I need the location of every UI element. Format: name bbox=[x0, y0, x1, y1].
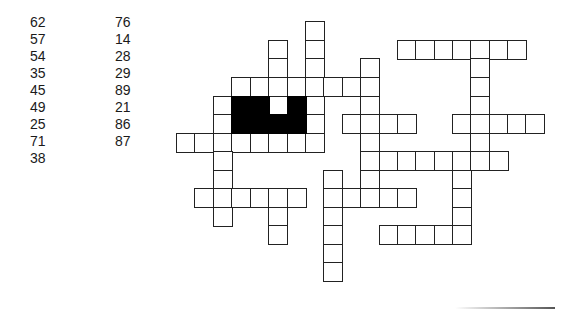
divider-rule bbox=[455, 307, 555, 309]
grid-cell[interactable] bbox=[360, 170, 380, 190]
grid-cell[interactable] bbox=[213, 114, 233, 134]
grid-cell[interactable] bbox=[525, 114, 545, 134]
grid-cell[interactable] bbox=[268, 188, 288, 208]
grid-cell[interactable] bbox=[507, 114, 527, 134]
grid-cell[interactable] bbox=[415, 151, 435, 171]
black-cell bbox=[250, 114, 270, 134]
grid-cell[interactable] bbox=[213, 151, 233, 171]
grid-cell[interactable] bbox=[287, 188, 307, 208]
grid-cell[interactable] bbox=[305, 40, 325, 60]
black-cell bbox=[231, 96, 251, 116]
black-cell bbox=[231, 114, 251, 134]
black-cell bbox=[287, 96, 307, 116]
grid-cell[interactable] bbox=[360, 188, 380, 208]
black-cell bbox=[268, 114, 288, 134]
grid-cell[interactable] bbox=[470, 58, 490, 78]
grid-cell[interactable] bbox=[434, 225, 454, 245]
grid-cell[interactable] bbox=[379, 151, 399, 171]
grid-cell[interactable] bbox=[452, 207, 472, 227]
grid-cell[interactable] bbox=[323, 262, 343, 282]
grid-cell[interactable] bbox=[360, 77, 380, 97]
grid-cell[interactable] bbox=[489, 151, 509, 171]
grid-cell[interactable] bbox=[342, 188, 362, 208]
grid-cell[interactable] bbox=[323, 188, 343, 208]
grid-cell[interactable] bbox=[231, 77, 251, 97]
grid-cell[interactable] bbox=[470, 40, 490, 60]
grid-cell[interactable] bbox=[250, 77, 270, 97]
grid-cell[interactable] bbox=[415, 40, 435, 60]
grid-cell[interactable] bbox=[397, 225, 417, 245]
grid-cell[interactable] bbox=[305, 133, 325, 153]
grid-cell[interactable] bbox=[268, 40, 288, 60]
black-cell bbox=[287, 114, 307, 134]
grid-cell[interactable] bbox=[213, 96, 233, 116]
grid-cell[interactable] bbox=[305, 58, 325, 78]
black-cell bbox=[250, 96, 270, 116]
grid-cell[interactable] bbox=[470, 151, 490, 171]
grid-cell[interactable] bbox=[507, 40, 527, 60]
grid-cell[interactable] bbox=[452, 170, 472, 190]
grid-cell[interactable] bbox=[452, 114, 472, 134]
grid-cell[interactable] bbox=[360, 151, 380, 171]
grid-cell[interactable] bbox=[231, 133, 251, 153]
grid-cell[interactable] bbox=[323, 170, 343, 190]
grid-cell[interactable] bbox=[268, 133, 288, 153]
grid-cell[interactable] bbox=[323, 77, 343, 97]
grid-cell[interactable] bbox=[231, 188, 251, 208]
grid-cell[interactable] bbox=[360, 133, 380, 153]
grid-cell[interactable] bbox=[379, 188, 399, 208]
grid-cell[interactable] bbox=[415, 225, 435, 245]
grid-cell[interactable] bbox=[489, 40, 509, 60]
grid-cell[interactable] bbox=[452, 40, 472, 60]
grid-cell[interactable] bbox=[379, 225, 399, 245]
grid-cell[interactable] bbox=[452, 225, 472, 245]
grid-cell[interactable] bbox=[305, 77, 325, 97]
grid-cell[interactable] bbox=[323, 207, 343, 227]
grid-cell[interactable] bbox=[360, 58, 380, 78]
grid-cell[interactable] bbox=[323, 225, 343, 245]
grid-cell[interactable] bbox=[268, 225, 288, 245]
crossword-grid bbox=[0, 0, 573, 311]
grid-cell[interactable] bbox=[452, 188, 472, 208]
grid-cell[interactable] bbox=[213, 170, 233, 190]
grid-cell[interactable] bbox=[434, 151, 454, 171]
grid-cell[interactable] bbox=[342, 114, 362, 134]
grid-cell[interactable] bbox=[470, 96, 490, 116]
grid-cell[interactable] bbox=[397, 151, 417, 171]
grid-cell[interactable] bbox=[470, 133, 490, 153]
grid-cell[interactable] bbox=[194, 133, 214, 153]
grid-cell[interactable] bbox=[305, 96, 325, 116]
grid-cell[interactable] bbox=[213, 188, 233, 208]
grid-cell[interactable] bbox=[250, 188, 270, 208]
grid-cell[interactable] bbox=[470, 114, 490, 134]
grid-cell[interactable] bbox=[176, 133, 196, 153]
grid-cell[interactable] bbox=[360, 114, 380, 134]
grid-cell[interactable] bbox=[305, 114, 325, 134]
grid-cell[interactable] bbox=[268, 96, 288, 116]
grid-cell[interactable] bbox=[452, 151, 472, 171]
grid-cell[interactable] bbox=[360, 96, 380, 116]
grid-cell[interactable] bbox=[287, 133, 307, 153]
grid-cell[interactable] bbox=[434, 40, 454, 60]
grid-cell[interactable] bbox=[268, 77, 288, 97]
grid-cell[interactable] bbox=[323, 244, 343, 264]
grid-cell[interactable] bbox=[287, 77, 307, 97]
grid-cell[interactable] bbox=[250, 133, 270, 153]
grid-cell[interactable] bbox=[213, 133, 233, 153]
grid-cell[interactable] bbox=[194, 188, 214, 208]
grid-cell[interactable] bbox=[397, 114, 417, 134]
grid-cell[interactable] bbox=[268, 207, 288, 227]
grid-cell[interactable] bbox=[342, 77, 362, 97]
grid-cell[interactable] bbox=[489, 114, 509, 134]
grid-cell[interactable] bbox=[379, 114, 399, 134]
grid-cell[interactable] bbox=[268, 58, 288, 78]
grid-cell[interactable] bbox=[397, 40, 417, 60]
grid-cell[interactable] bbox=[305, 21, 325, 41]
grid-cell[interactable] bbox=[397, 188, 417, 208]
grid-cell[interactable] bbox=[470, 77, 490, 97]
grid-cell[interactable] bbox=[213, 207, 233, 227]
